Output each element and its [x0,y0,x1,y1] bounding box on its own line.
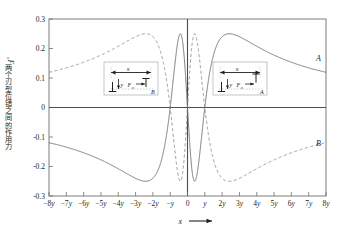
x-tick-label: y [202,199,207,208]
chart-figure: 两个刃型位错之间的作用力Fx 0.3 0.2 0.1 0 -0.1 -0.2 [0,0,340,231]
inset-b-force-subscript: x [131,85,134,90]
inset-a-dim-label: x [235,66,239,72]
y-tick-label: -0.2 [33,162,45,171]
x-tick-label: −8y [43,199,55,208]
inset-a-force-label: F [236,82,241,88]
inset-a-y-label: y [229,82,233,88]
y-tick-label: 0.2 [36,44,46,53]
inset-b-y-label: y [120,82,124,88]
x-tick-label: 7y [305,199,313,208]
inset-b-force-label: F [127,82,132,88]
x-tick-label: 2y [219,199,227,208]
inset-diagram-a: x y F x A [213,62,267,95]
x-tick-label: 5y [271,199,279,208]
x-tick-label: 8y [322,199,330,208]
x-tick-label: −3y [130,199,142,208]
x-tick-label: −7y [61,199,73,208]
x-axis-title: x [177,217,182,226]
x-tick-label: −y [166,199,174,208]
x-axis-arrow-icon [189,219,212,223]
y-axis-tick-labels: 0.3 0.2 0.1 0 -0.1 -0.2 -0.3 [33,15,45,201]
series-label-b: B [316,139,321,148]
inset-a-curve-label: A [259,89,264,95]
x-tick-label: −4y [113,199,125,208]
x-tick-label: −2y [147,199,159,208]
x-axis-tick-labels: −8y−7y−6y−5y−4y−3y−2y−y0y2y3y4y5y6y7y8y [43,199,330,208]
x-tick-label: −6y [78,199,90,208]
y-tick-label: 0 [41,103,45,112]
x-tick-label: 3y [236,199,244,208]
x-tick-label: 0 [186,199,190,208]
inset-b-curve-label: B [151,89,155,95]
chart-plot-area: 0.3 0.2 0.1 0 -0.1 -0.2 -0.3 −8y−7y−6y−5… [0,0,340,231]
inset-diagram-b: x y F x B [104,62,158,95]
series-label-a: A [315,54,321,63]
inset-a-force-subscript: x [240,85,243,90]
inset-b-dim-label: x [126,66,130,72]
y-tick-label: -0.1 [33,133,45,142]
y-tick-label: 0.3 [36,15,46,24]
x-tick-label: 6y [288,199,296,208]
x-tick-label: −5y [95,199,107,208]
x-tick-label: 4y [253,199,261,208]
y-tick-label: 0.1 [36,74,46,83]
